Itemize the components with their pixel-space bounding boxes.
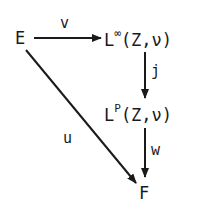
node-f-label: F (139, 183, 149, 203)
edge-label-v: v (60, 16, 69, 31)
commutative-diagram: E L∞(Z,ν) LP(Z,ν) F v j w u (0, 0, 200, 212)
node-e-label: E (15, 28, 25, 48)
node-linf-args: (Z,ν) (121, 30, 172, 50)
node-lp-superscript: P (114, 102, 121, 115)
edge-label-j: j (151, 64, 160, 79)
node-linf: L∞(Z,ν) (104, 30, 172, 49)
node-lp: LP(Z,ν) (104, 105, 172, 124)
edge-label-w: w (151, 143, 160, 158)
node-lp-base: L (104, 105, 114, 125)
node-linf-base: L (104, 30, 114, 50)
edge-label-u: u (63, 131, 72, 146)
node-lp-args: (Z,ν) (121, 105, 172, 125)
node-e: E (15, 30, 25, 47)
node-f: F (139, 185, 149, 202)
node-linf-superscript: ∞ (114, 27, 121, 40)
